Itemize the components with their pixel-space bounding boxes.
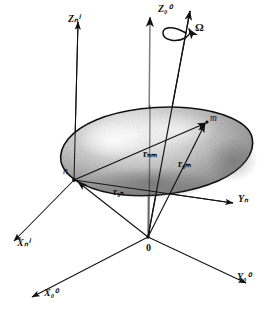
vector-label-r-On: r₀ₙ [113, 188, 124, 198]
axis-line-z0-front [149, 105, 150, 237]
axis-label-y-body: Yₙ [238, 194, 248, 204]
point-dot-m [205, 120, 208, 123]
omega-label: Ω [195, 22, 204, 33]
rigid-body-diagram: Z₀⁰ Zₙⁱ Yₙ Xₙⁱ Y₀⁰ X₀⁰ rₙₘ r₀ₘ r₀ₙ n m 0… [0, 0, 264, 311]
axis-label-z-inertial: Z₀⁰ [158, 4, 172, 14]
rigid-body-group [61, 107, 258, 199]
axis-line-y0 [148, 237, 246, 283]
point-label-origin: 0 [146, 243, 151, 253]
point-dot-0 [146, 235, 149, 238]
body-shadow-right [206, 138, 258, 182]
axis-line-xn [14, 180, 74, 241]
axis-label-z-body: Zₙⁱ [68, 14, 80, 24]
diagram-canvas [0, 0, 264, 311]
point-label-m: m [210, 114, 217, 124]
axis-label-x-body: Xₙⁱ [17, 238, 30, 248]
point-label-n: n [63, 167, 68, 177]
vector-label-r-Om: r₀ₘ [178, 160, 191, 170]
axis-label-y-inertial: Y₀⁰ [237, 272, 251, 282]
axis-label-x-inertial: X₀⁰ [44, 288, 58, 298]
point-dot-n [72, 178, 76, 182]
vector-label-r-nm: rₙₘ [143, 150, 157, 160]
